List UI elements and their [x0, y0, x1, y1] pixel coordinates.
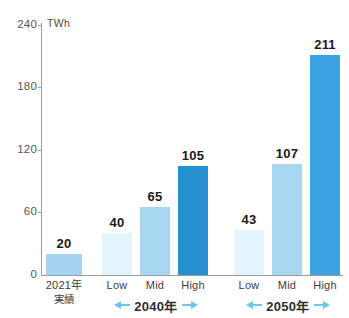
y-tick-label-0: 0: [0, 269, 37, 281]
y-tick-label-240: 240: [0, 19, 37, 31]
y-tick-mark-180: [38, 87, 42, 88]
y-axis-unit-label: TWh: [47, 17, 70, 29]
y-tick-label-120: 120: [0, 144, 37, 156]
x-label-2050-mid: Mid: [267, 279, 307, 293]
group-span-2050: 2050年: [230, 295, 346, 315]
bar-value-2021-actual: 20: [42, 237, 86, 250]
x-label-2050-high: High: [304, 279, 346, 293]
bar-value-2040-low: 40: [97, 216, 137, 229]
x-label-2021: 2021年 実績: [40, 279, 88, 306]
bar-value-2040-mid: 65: [135, 190, 175, 203]
arrow-right-icon: [182, 301, 198, 309]
x-label-2021-sub: 実績: [40, 293, 88, 306]
y-tick-mark-240: [38, 25, 42, 26]
arrow-right-icon: [314, 301, 330, 309]
x-label-2040-low: Low: [97, 279, 137, 293]
bar-value-2050-low: 43: [229, 213, 269, 226]
x-label-2040-high: High: [172, 279, 214, 293]
y-tick-label-60: 60: [0, 206, 37, 218]
y-tick-label-180: 180: [0, 81, 37, 93]
bar-value-2050-mid: 107: [264, 147, 310, 160]
bar-2040-high: [178, 166, 208, 275]
x-label-2021-year: 2021年: [46, 279, 82, 291]
bar-2040-mid: [140, 207, 170, 275]
bar-2050-low: [234, 230, 264, 275]
arrow-left-icon: [246, 301, 262, 309]
bar-value-2050-high: 211: [302, 38, 348, 51]
y-tick-mark-60: [38, 212, 42, 213]
bar-2021-actual: [46, 254, 82, 275]
bar-2050-mid: [272, 164, 302, 275]
x-label-2040-mid: Mid: [135, 279, 175, 293]
bar-value-2040-high: 105: [170, 149, 216, 162]
bar-2040-low: [102, 233, 132, 275]
arrow-left-icon: [114, 301, 130, 309]
x-axis-line: [41, 275, 343, 276]
bar-2050-high: [310, 55, 340, 275]
x-label-2050-low: Low: [229, 279, 269, 293]
group-label-2050: 2050年: [266, 296, 309, 315]
bar-chart: TWh 240 180 120 60 0 20 40 65 105 43 107…: [0, 0, 349, 318]
group-label-2040: 2040年: [134, 296, 177, 315]
group-span-2040: 2040年: [98, 295, 214, 315]
y-tick-mark-120: [38, 150, 42, 151]
